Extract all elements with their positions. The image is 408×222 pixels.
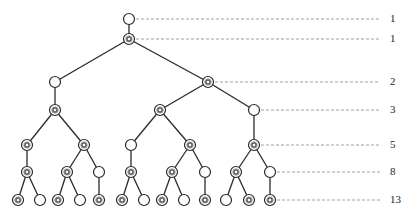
mature-pair-node [244, 195, 255, 206]
young-pair-node [75, 195, 86, 206]
mature-pair-node [79, 140, 90, 151]
tree-edge [160, 82, 208, 110]
mature-pair-node [167, 167, 178, 178]
fibonacci-tree-diagram [0, 0, 408, 222]
young-pair-node [221, 195, 232, 206]
young-pair-node [200, 167, 211, 178]
mature-pair-node [231, 167, 242, 178]
tree-edge [27, 110, 55, 145]
young-pair-node [35, 195, 46, 206]
mature-pair-node [157, 195, 168, 206]
young-pair-node [265, 167, 276, 178]
level-count-label: 5 [390, 139, 396, 150]
mature-pair-node [124, 34, 135, 45]
mature-pair-node [117, 195, 128, 206]
tree-edge [55, 110, 84, 145]
young-pair-node [94, 167, 105, 178]
mature-pair-node [22, 167, 33, 178]
tree-edge [208, 82, 254, 110]
young-pair-node [179, 195, 190, 206]
tree-nodes [13, 14, 276, 206]
mature-pair-node [126, 167, 137, 178]
level-count-label: 8 [390, 166, 396, 177]
young-pair-node [50, 77, 61, 88]
tree-edge [55, 39, 129, 82]
mature-pair-node [13, 195, 24, 206]
mature-pair-node [249, 140, 260, 151]
level-count-label: 2 [390, 76, 396, 87]
mature-pair-node [200, 195, 211, 206]
mature-pair-node [22, 140, 33, 151]
young-pair-node [139, 195, 150, 206]
level-count-label: 3 [390, 104, 396, 115]
young-pair-node [249, 105, 260, 116]
mature-pair-node [265, 195, 276, 206]
mature-pair-node [50, 105, 61, 116]
tree-edge [129, 39, 208, 82]
mature-pair-node [185, 140, 196, 151]
tree-edge [131, 110, 160, 145]
mature-pair-node [94, 195, 105, 206]
tree-edge [160, 110, 190, 145]
mature-pair-node [155, 105, 166, 116]
mature-pair-node [53, 195, 64, 206]
level-count-label: 13 [390, 194, 401, 205]
mature-pair-node [203, 77, 214, 88]
mature-pair-node [62, 167, 73, 178]
young-pair-node [124, 14, 135, 25]
young-pair-node [126, 140, 137, 151]
level-count-label: 1 [390, 33, 396, 44]
level-count-label: 1 [390, 13, 396, 24]
